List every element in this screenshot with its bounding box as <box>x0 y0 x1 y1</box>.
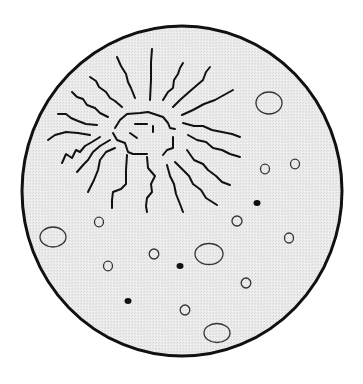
inclusion-dot <box>177 263 184 269</box>
diagram-stage <box>0 0 363 384</box>
inclusion-dot <box>254 200 261 206</box>
inclusion-dot <box>125 298 132 304</box>
microscope-field-diagram <box>0 0 363 384</box>
